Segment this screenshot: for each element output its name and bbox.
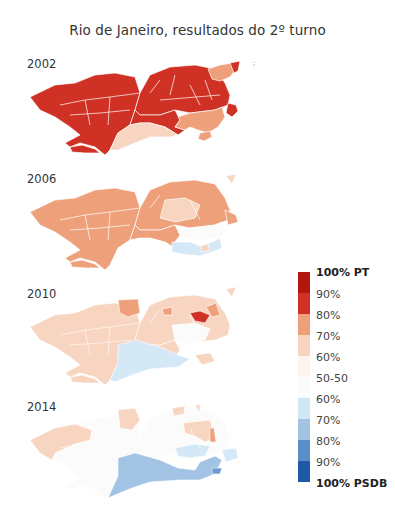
legend-swatch-psdb-60 <box>298 398 310 419</box>
legend-label-pt-70: 70% <box>316 330 340 343</box>
legend-label-pt-90: 90% <box>316 288 340 301</box>
legend-label-pt-80: 80% <box>316 309 340 322</box>
map-panel-2002: 2002 ⁏ <box>0 55 280 170</box>
small-island-marker: ⁏ <box>253 59 255 66</box>
rio-map-2002: ⁏ <box>0 55 280 170</box>
legend-swatch-pt-80 <box>298 314 310 335</box>
legend-swatch-psdb-90 <box>298 461 310 482</box>
legend-label-pt-100: 100% PT <box>316 266 369 279</box>
chart-title: Rio de Janeiro, resultados do 2º turno <box>0 22 395 38</box>
map-panel-2010: 2010 <box>0 285 280 400</box>
legend-label-psdb-100: 100% PSDB <box>316 477 387 490</box>
legend-swatch-pt-100 <box>298 272 310 293</box>
map-panel-2006: 2006 <box>0 170 280 285</box>
legend-swatch-pt-70 <box>298 335 310 356</box>
rio-map-2006 <box>0 170 280 285</box>
legend-label-psdb-90: 90% <box>316 456 340 469</box>
legend-label-psdb-60: 60% <box>316 393 340 406</box>
legend-swatch-psdb-80 <box>298 440 310 461</box>
legend-swatch-pt-90 <box>298 293 310 314</box>
legend-label-psdb-70: 70% <box>316 414 340 427</box>
legend-label-pt-60: 60% <box>316 351 340 364</box>
legend-swatch-neutral <box>298 377 310 398</box>
legend-label-psdb-80: 80% <box>316 435 340 448</box>
legend-label-neutral: 50-50 <box>316 372 348 385</box>
legend-swatch-psdb-70 <box>298 419 310 440</box>
map-panel-2014: 2014 <box>0 398 280 513</box>
legend-swatch-pt-60 <box>298 356 310 377</box>
rio-map-2010 <box>0 285 280 400</box>
rio-map-2014 <box>0 398 280 513</box>
